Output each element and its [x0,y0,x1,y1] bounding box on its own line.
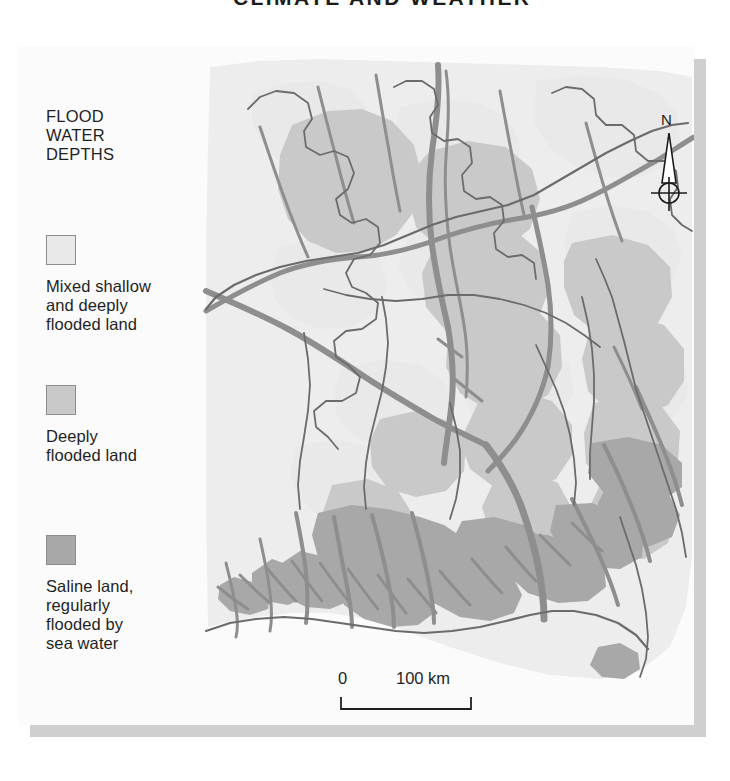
legend-item-deeply-flooded[interactable]: Deeply flooded land [46,385,196,465]
legend-label-mixed: Mixed shallow and deeply flooded land [46,277,196,334]
legend-title: FLOOD WATER DEPTHS [46,107,196,164]
scale-bar-labels: 0 100 km [338,669,528,691]
legend-item-saline-land[interactable]: Saline land, regularly flooded by sea wa… [46,535,196,653]
legend-swatch-saline [46,535,76,565]
figure-plate: FLOOD WATER DEPTHS Mixed shallow and dee… [18,47,694,725]
legend-item-mixed-shallow-and-deeply-flooded[interactable]: Mixed shallow and deeply flooded land [46,235,196,334]
north-arrow: N [643,111,694,216]
north-arrow-label: N [661,111,672,128]
legend-swatch-deeply [46,385,76,415]
scale-bar-start-label: 0 [338,669,347,688]
map-canvas[interactable] [200,47,694,725]
scale-bar: 0 100 km [338,669,528,715]
page-header: CLIMATE AND WEATHER [0,0,730,12]
scale-bar-rule [340,695,480,713]
map-graphic [200,47,694,725]
legend: FLOOD WATER DEPTHS [46,107,196,164]
legend-label-deeply: Deeply flooded land [46,427,196,465]
map-figure: FLOOD WATER DEPTHS Mixed shallow and dee… [18,47,694,725]
legend-swatch-mixed [46,235,76,265]
legend-label-saline: Saline land, regularly flooded by sea wa… [46,577,196,653]
scale-bar-end-label: 100 km [396,669,450,688]
page-title: CLIMATE AND WEATHER [233,0,531,10]
